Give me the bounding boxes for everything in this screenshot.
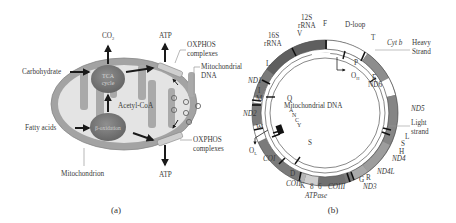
label-16s-1: 16S — [268, 32, 279, 40]
co2-label: CO2 — [102, 32, 114, 41]
label-nd1: ND1 — [247, 77, 262, 85]
label-atp8: 8 — [310, 183, 314, 191]
oxphos-top-label-1: OXPHOS — [187, 41, 216, 49]
label-nd2: ND2 — [242, 110, 257, 118]
fatty-acids-label: Fatty acids — [25, 124, 57, 132]
label-16s-2: rRNA — [264, 40, 282, 48]
oxphos-bottom-label-1: OXPHOS — [193, 136, 222, 144]
mtdna-label-2: DNA — [201, 72, 217, 80]
acetyl-coa-label: Acetyl-CoA — [118, 102, 154, 110]
trna-d: D — [290, 170, 295, 178]
trna-p: P — [354, 59, 358, 67]
label-light-2: strand — [411, 128, 429, 136]
trna-s1: S — [401, 140, 405, 148]
label-heavy-1: Heavy — [412, 39, 431, 47]
oh-label: OH — [351, 72, 360, 81]
trna-s2: S — [308, 139, 312, 147]
label-nd5: ND5 — [410, 105, 425, 113]
ol-label: OL — [249, 147, 257, 156]
trna-r: R — [366, 174, 371, 182]
atp-bottom-label: ATP — [159, 171, 172, 179]
tca-label-1: TCA — [102, 73, 115, 79]
panel-a-mitochondrion-diagram: TCA cycle β-oxidation — [22, 32, 242, 215]
caption-a: (a) — [111, 205, 121, 215]
mtdna-label-1: Mitochondrial — [201, 63, 242, 71]
label-nd3: ND3 — [362, 183, 377, 191]
label-12s-2: rRNA — [298, 22, 316, 30]
mitochondrion-label: Mitochondrion — [61, 170, 105, 178]
trna-t: T — [371, 34, 376, 42]
label-atp6: 6 — [318, 183, 322, 191]
caption-b: (b) — [328, 205, 339, 215]
trna-y: Y — [297, 122, 302, 128]
label-atpase: ATPase — [304, 192, 328, 200]
label-nd4: ND4 — [391, 155, 406, 163]
label-nd6: ND6 — [368, 81, 382, 89]
trna-m: M — [256, 95, 263, 103]
trna-l1: L — [266, 60, 270, 68]
trna-e: E — [372, 74, 377, 82]
tca-label-2: cycle — [102, 80, 115, 86]
trna-f: F — [323, 20, 327, 28]
beta-oxidation-label: β-oxidation — [95, 125, 121, 131]
light-strand-ring — [265, 53, 385, 173]
trna-q: Q — [287, 95, 293, 103]
trna-k: K — [300, 182, 306, 190]
label-heavy-2: Strand — [412, 48, 431, 56]
oxphos-bottom-label-2: complexes — [193, 145, 224, 153]
label-d-loop: D-loop — [345, 21, 366, 29]
panel-b-mtdna-map: 12S rRNA 16S rRNA D-loop Cyt b Heavy Str… — [242, 14, 431, 215]
trna-v: V — [297, 30, 303, 38]
trna-h: H — [399, 148, 404, 156]
label-nd4l: ND4L — [376, 168, 395, 176]
oxphos-top-label-2: complexes — [187, 50, 218, 58]
trna-l2: L — [405, 133, 409, 141]
trna-g: G — [359, 176, 364, 184]
atp-top-label: ATP — [159, 32, 172, 40]
label-light-1: Light — [411, 119, 427, 127]
trna-w: W — [256, 124, 263, 132]
label-coi: COI — [263, 155, 276, 163]
label-coiii: COIII — [328, 183, 346, 191]
label-12s-1: 12S — [301, 14, 312, 22]
carbohydrate-label: Carbohydrate — [22, 68, 61, 76]
tca-cycle — [91, 65, 125, 93]
oh-origin-arrow — [337, 57, 345, 70]
label-cyt-b: Cyt b — [387, 39, 403, 47]
